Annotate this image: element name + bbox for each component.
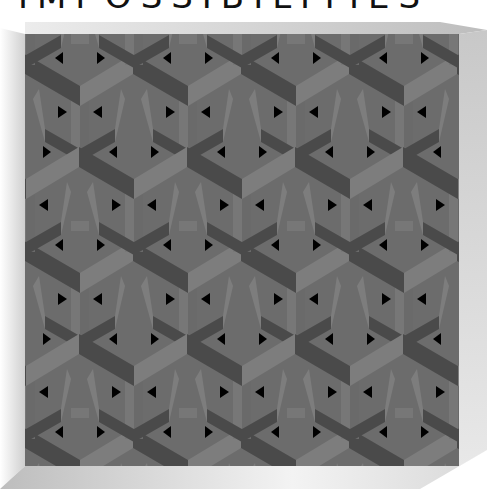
frame-right-bevel [459,30,487,466]
impossible-cube-artwork [0,0,502,489]
tessellation-panel [25,34,459,466]
frame-left-bevel [0,28,25,489]
frame-top-bevel [25,22,487,34]
